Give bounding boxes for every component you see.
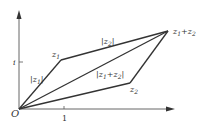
sum-label: z1+z2	[172, 27, 196, 37]
parallelogram-diagram: O 1 i z1 z2 z1+z2 |z1| |z2| |z1+z2|	[0, 0, 207, 130]
segment-z1-sum	[61, 31, 168, 60]
mod-sum-label: |z1+z2|	[96, 70, 124, 80]
segment-o-z2	[19, 83, 130, 109]
mod-z2-label: |z2|	[101, 37, 114, 47]
axes	[17, 10, 176, 112]
parallelogram	[19, 31, 168, 109]
mod-z1-label: |z1|	[30, 75, 43, 85]
y-tick-label: i	[13, 58, 16, 67]
x-axis-arrow-icon	[166, 107, 175, 112]
y-axis-arrow-icon	[17, 10, 22, 19]
z1-label: z1	[51, 50, 60, 60]
z2-label: z2	[129, 85, 138, 95]
x-tick-label: 1	[62, 114, 67, 123]
segment-z2-sum	[130, 31, 168, 83]
segment-o-sum	[19, 31, 168, 109]
origin-label: O	[11, 108, 19, 119]
